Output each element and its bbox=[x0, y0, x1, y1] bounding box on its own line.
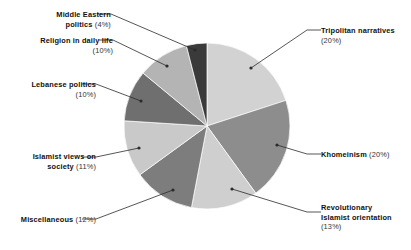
pie-label-khomeinism: Khomeinism (20%) bbox=[321, 150, 390, 160]
leader-dot bbox=[165, 64, 168, 67]
pie-label-percent: (13%) bbox=[321, 222, 341, 231]
pie-label-lebanese-politics: Lebanese politics (10%) bbox=[7, 80, 96, 99]
pie-label-name: Lebanese politics bbox=[31, 80, 96, 89]
leader-dot bbox=[249, 66, 252, 69]
leader-dot bbox=[139, 99, 142, 102]
pie-label-name-line2: politics bbox=[65, 20, 92, 29]
leader-dot bbox=[193, 48, 196, 51]
leader-dot bbox=[171, 188, 174, 191]
leader-dot bbox=[137, 146, 140, 149]
pie-label-percent: (10%) bbox=[93, 46, 113, 55]
leader-line bbox=[232, 189, 321, 212]
pie-label-tripolitan-narratives: Tripolitan narratives (20%) bbox=[321, 26, 395, 45]
pie-label-name-line2: society bbox=[47, 162, 74, 171]
leader-line bbox=[251, 30, 321, 68]
pie-label-percent: (20%) bbox=[321, 36, 341, 45]
leader-dot bbox=[275, 143, 278, 146]
leader-dot bbox=[230, 187, 233, 190]
pie-label-name-line2: Islamist orientation bbox=[321, 213, 392, 222]
pie-label-percent: (10%) bbox=[76, 90, 96, 99]
pie-label-name-line1: Revolutionary bbox=[321, 203, 372, 212]
pie-label-miscellaneous: Miscellaneous (12%) bbox=[7, 215, 96, 225]
pie-label-islamist-views-on-society: Islamist views on society (11%) bbox=[7, 152, 96, 171]
pie-label-name-line1: Middle Eastern bbox=[56, 10, 111, 19]
pie-label-percent: (12%) bbox=[76, 215, 96, 224]
pie-label-middle-eastern-politics: Middle Eastern politics (4%) bbox=[7, 10, 111, 29]
pie-label-percent: (20%) bbox=[369, 150, 389, 159]
pie-label-name-line1: Islamist views on bbox=[33, 152, 96, 161]
pie-label-name: Khomeinism bbox=[321, 150, 367, 159]
pie-label-percent: (11%) bbox=[76, 162, 96, 171]
pie-label-name: Miscellaneous bbox=[21, 215, 73, 224]
pie-label-name: Tripolitan narratives bbox=[321, 26, 395, 35]
leader-line bbox=[277, 145, 321, 154]
pie-label-religion-in-daily-life: Religion in daily life (10%) bbox=[7, 36, 113, 55]
pie-label-percent: (4%) bbox=[95, 20, 111, 29]
pie-chart-figure: Tripolitan narratives (20%) Khomeinism (… bbox=[0, 0, 411, 250]
pie-label-revolutionary-islamist-orientation: Revolutionary Islamist orientation (13%) bbox=[321, 203, 392, 232]
pie-label-name: Religion in daily life bbox=[40, 36, 113, 45]
